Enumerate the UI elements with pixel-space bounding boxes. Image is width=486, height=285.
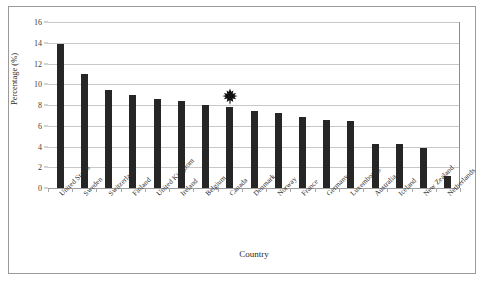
bar-series	[48, 22, 459, 188]
bar	[154, 99, 161, 188]
bar	[420, 148, 427, 188]
y-axis-tick-label: 0	[38, 184, 42, 193]
x-axis-tick-labels: United StatesSwedenSwitzerlandFinlandUni…	[48, 192, 460, 250]
bar	[323, 120, 330, 188]
y-axis-tick-label: 2	[38, 163, 42, 172]
y-axis-tick-label: 12	[34, 59, 42, 68]
y-axis-tick-label: 8	[38, 101, 42, 110]
y-axis: 0246810121416	[0, 22, 48, 188]
plot-area	[48, 22, 460, 188]
y-axis-tick-label: 16	[34, 18, 42, 27]
bar	[202, 105, 209, 188]
bar	[251, 111, 258, 188]
chart-figure: 0246810121416 Percentage (%) United Stat…	[0, 0, 486, 285]
bar	[299, 117, 306, 188]
x-axis-title: Country	[48, 249, 460, 259]
bar	[396, 144, 403, 188]
bar	[105, 90, 112, 188]
bar	[226, 107, 233, 188]
y-axis-tick-label: 14	[34, 38, 42, 47]
y-axis-title: Percentage (%)	[9, 34, 19, 124]
y-axis-tick-label: 6	[38, 121, 42, 130]
y-axis-tick-label: 10	[34, 80, 42, 89]
y-axis-tick-label: 4	[38, 142, 42, 151]
maple-leaf-icon	[221, 87, 239, 105]
bar	[57, 44, 64, 188]
